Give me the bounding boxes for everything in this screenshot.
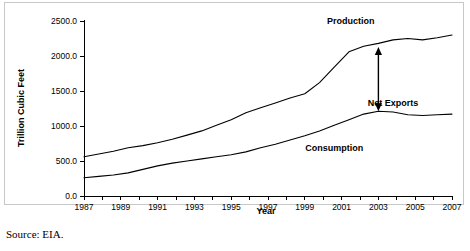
x-tick-label: 1987 <box>75 202 94 212</box>
net-exports-label: Net Exports <box>368 98 419 108</box>
x-tick-label: 1995 <box>222 202 241 212</box>
axes-group <box>84 20 452 196</box>
y-tick-label: 0.0 <box>65 191 77 201</box>
axis-lines <box>84 20 452 196</box>
x-tick-label: 2007 <box>443 202 462 212</box>
x-tick-label: 1993 <box>185 202 204 212</box>
x-tick-label: 1991 <box>148 202 167 212</box>
x-tick-label: 1989 <box>111 202 130 212</box>
y-tick-label: 1000.0 <box>51 121 77 131</box>
y-tick-label: 1500.0 <box>51 86 77 96</box>
series-line-production <box>84 35 452 157</box>
y-axis-tick-labels: 0.0500.01000.01500.02000.02500.0 <box>51 16 77 201</box>
net-exports-arrow-head-up <box>375 47 382 55</box>
consumption-label: Consumption <box>305 143 363 153</box>
x-axis-title: Year <box>256 206 276 216</box>
line-chart: 0.0500.01000.01500.02000.02500.0 1987198… <box>0 0 470 215</box>
y-axis-title: Trillion Cubic Feet <box>16 69 26 147</box>
x-tick-label: 2003 <box>369 202 388 212</box>
y-axis-ticks <box>80 21 84 196</box>
y-tick-label: 2500.0 <box>51 16 77 26</box>
y-tick-label: 500.0 <box>56 156 78 166</box>
series-line-consumption <box>84 111 452 178</box>
x-tick-label: 1999 <box>295 202 314 212</box>
x-tick-label: 2005 <box>406 202 425 212</box>
x-axis-ticks <box>84 196 452 200</box>
source-note: Source: EIA. <box>6 228 63 240</box>
production-label: Production <box>327 16 375 26</box>
annotations-group: ProductionNet ExportsConsumption <box>305 16 418 153</box>
chart-figure: 0.0500.01000.01500.02000.02500.0 1987198… <box>0 0 470 251</box>
x-tick-label: 2001 <box>332 202 351 212</box>
y-tick-label: 2000.0 <box>51 51 77 61</box>
